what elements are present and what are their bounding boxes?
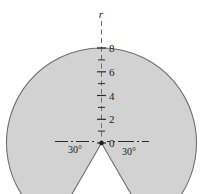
r-tick-label-6: 6 xyxy=(109,66,115,78)
r-axis-label: r xyxy=(99,8,104,20)
r-tick-label-4: 4 xyxy=(109,90,115,102)
shaded-region-group xyxy=(7,48,197,194)
origin-label-zero: 0 xyxy=(109,137,115,149)
shaded-sector-shape xyxy=(7,48,197,194)
polar-sector-figure: r 8 6 4 2 0 30° 30° xyxy=(0,0,200,194)
left-angle-label: 30° xyxy=(68,144,82,155)
origin-point-marker xyxy=(99,141,104,146)
right-angle-label: 30° xyxy=(122,146,136,157)
r-tick-label-2: 2 xyxy=(109,113,115,125)
diagram-canvas: r 8 6 4 2 0 30° 30° xyxy=(0,0,200,194)
r-tick-label-8: 8 xyxy=(109,42,115,54)
